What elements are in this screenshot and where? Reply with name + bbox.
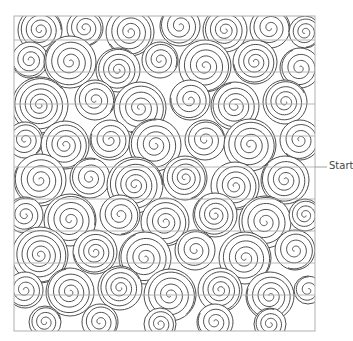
spiral-pattern [7, 6, 322, 340]
start-label: Start [329, 160, 353, 171]
